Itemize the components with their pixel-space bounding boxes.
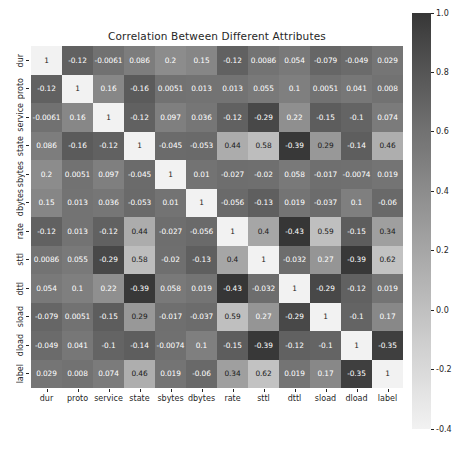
heatmap-cell: 0.15: [186, 46, 217, 75]
colorbar-tick-label: -0.2: [436, 365, 452, 374]
heatmap-cell: -0.027: [155, 217, 186, 246]
heatmap-cell: -0.12: [62, 46, 93, 75]
heatmap-cell: 1: [248, 246, 279, 275]
heatmap-cell-value: 0.058: [284, 171, 305, 178]
heatmap-cell: 0.086: [31, 132, 62, 161]
heatmap-cell-value: 1: [292, 285, 297, 292]
x-axis-tick-label: label: [378, 394, 397, 403]
y-axis-tick-label: rate: [16, 223, 25, 239]
heatmap-cell-value: 0.22: [286, 114, 302, 121]
heatmap-cell-value: -0.049: [35, 342, 58, 349]
heatmap-cell-value: -0.017: [159, 313, 182, 320]
y-axis-tickmark: [26, 60, 29, 61]
x-axis-tick-label: service: [94, 394, 123, 403]
heatmap-cell-value: -0.056: [190, 228, 213, 235]
heatmap-cell: 0.041: [62, 331, 93, 360]
heatmap-cell: -0.29: [248, 103, 279, 132]
heatmap-cell-value: 0.2: [165, 57, 176, 64]
heatmap-cell-value: 1: [230, 228, 235, 235]
heatmap-cell-value: 0.008: [67, 370, 88, 377]
heatmap-cell: 0.074: [372, 103, 403, 132]
heatmap-cell: -0.045: [155, 132, 186, 161]
heatmap-cell-value: 0.27: [317, 256, 333, 263]
heatmap-cell: -0.12: [217, 103, 248, 132]
y-axis-tick-label: proto: [16, 78, 25, 99]
heatmap-cell-value: -0.0061: [33, 114, 61, 121]
heatmap-cell: -0.049: [341, 46, 372, 75]
y-axis-tick-label: sttl: [16, 253, 25, 266]
y-axis-tickmark: [26, 117, 29, 118]
heatmap-cell-value: 0.0051: [313, 85, 338, 92]
x-axis-tickmark: [357, 389, 358, 392]
heatmap-cell: 0.16: [93, 75, 124, 104]
heatmap-cell: -0.056: [217, 189, 248, 218]
heatmap-cell: -0.0074: [341, 160, 372, 189]
heatmap-cell-value: -0.1: [349, 114, 363, 121]
heatmap-cell: 0.097: [155, 103, 186, 132]
heatmap-cell-value: -0.13: [192, 256, 211, 263]
heatmap-cell: -0.049: [31, 331, 62, 360]
y-axis-tick-state: state: [0, 132, 29, 160]
heatmap-cell-value: -0.0074: [157, 342, 185, 349]
colorbar-gradient: [412, 13, 431, 429]
x-axis-tickmark: [295, 389, 296, 392]
colorbar: 1.00.80.60.40.20.0-0.2-0.4: [412, 13, 459, 429]
heatmap-cell-value: 1: [168, 171, 173, 178]
heatmap-cell: -0.045: [124, 160, 155, 189]
heatmap-cell-value: 0.44: [224, 142, 240, 149]
heatmap-cell: 0.16: [62, 103, 93, 132]
y-axis-tick-dload: dload: [0, 331, 29, 359]
x-axis-tick-dbytes: dbytes: [186, 389, 217, 411]
x-axis-tickmark: [388, 389, 389, 392]
heatmap-cell: -0.12: [93, 217, 124, 246]
x-axis-tick-label: dbytes: [188, 394, 215, 403]
heatmap-cell: 1: [124, 132, 155, 161]
y-axis-tick-label: label: [0, 360, 29, 389]
heatmap-cell: 0.055: [248, 75, 279, 104]
heatmap-cell-value: 0.4: [227, 256, 238, 263]
heatmap-cell: -0.15: [341, 217, 372, 246]
heatmap-cell-value: 0.0086: [251, 57, 276, 64]
heatmap-cell-value: 0.029: [36, 370, 57, 377]
x-axis-tick-labels: durprotoservicestatesbytesdbytesratesttl…: [31, 389, 403, 411]
x-axis-tickmark: [140, 389, 141, 392]
heatmap-cell: -0.16: [124, 75, 155, 104]
heatmap-cell: -0.032: [248, 274, 279, 303]
heatmap-cell-value: 0.62: [379, 256, 395, 263]
heatmap-cell: -0.16: [62, 132, 93, 161]
heatmap-cell: 0.041: [341, 75, 372, 104]
heatmap-cell: 1: [62, 75, 93, 104]
heatmap-cell: -0.053: [124, 189, 155, 218]
heatmap-cell-value: 0.074: [98, 370, 119, 377]
x-axis-tickmark: [264, 389, 265, 392]
y-axis-tickmark: [26, 174, 29, 175]
heatmap-cell-value: 0.029: [377, 57, 398, 64]
heatmap-cell-value: 0.0086: [34, 256, 59, 263]
heatmap-cell: 0.62: [372, 246, 403, 275]
heatmap-cell: 0.4: [217, 246, 248, 275]
heatmap-cell: -0.017: [155, 303, 186, 332]
heatmap-cell: 0.058: [279, 160, 310, 189]
colorbar-tickmark: [431, 13, 434, 14]
heatmap-cell: 0.2: [31, 160, 62, 189]
heatmap-cell: 0.62: [248, 360, 279, 389]
y-axis-tickmark: [26, 202, 29, 203]
heatmap-cell-value: -0.079: [35, 313, 58, 320]
heatmap-cell-value: 0.013: [67, 199, 88, 206]
heatmap-cell: -0.15: [217, 331, 248, 360]
heatmap-cell-value: -0.39: [254, 342, 273, 349]
heatmap-cell: -0.29: [279, 303, 310, 332]
heatmap-cell: -0.056: [186, 217, 217, 246]
heatmap-cell-value: 0.041: [67, 342, 88, 349]
colorbar-tick-label: 0.4: [436, 186, 449, 195]
colorbar-tickmark: [431, 429, 434, 430]
heatmap-cell-value: 1: [199, 199, 204, 206]
heatmap-cell-value: 0.17: [317, 370, 333, 377]
colorbar-tick-label: 0.2: [436, 246, 449, 255]
x-axis-tick-proto: proto: [62, 389, 93, 411]
x-axis-tick-label: dttl: [288, 394, 302, 403]
heatmap-cell: 0.27: [310, 246, 341, 275]
x-axis-tick-rate: rate: [217, 389, 248, 411]
heatmap-cell-value: -0.027: [159, 228, 182, 235]
heatmap-cell-value: 0.01: [193, 171, 209, 178]
